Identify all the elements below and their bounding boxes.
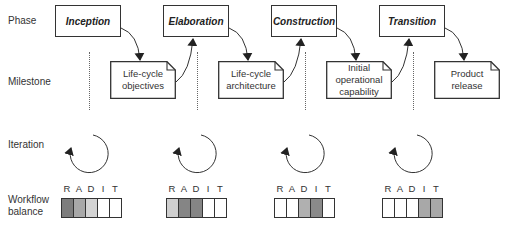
balance-cell (98, 199, 110, 217)
discipline-letter: I (418, 183, 430, 195)
discipline-letter: A (73, 183, 85, 195)
discipline-letter: T (214, 183, 226, 195)
workflow-balance-elaboration: R A D I T (166, 183, 227, 218)
balance-cell (179, 199, 191, 217)
balance-cell (110, 199, 121, 217)
balance-bar (382, 198, 443, 218)
discipline-letter: D (406, 183, 418, 195)
balance-cell (383, 199, 395, 217)
balance-cell (191, 199, 203, 217)
balance-bar (274, 198, 335, 218)
discipline-letter: T (109, 183, 121, 195)
workflow-balance-inception: R A D I T (61, 183, 122, 218)
arrow-phase-to-milestone (121, 28, 464, 60)
discipline-letter: D (85, 183, 97, 195)
balance-bar (61, 198, 122, 218)
balance-cell (86, 199, 98, 217)
arrow-milestone-to-phase (176, 39, 409, 82)
balance-cell (323, 199, 334, 217)
discipline-letter: R (382, 183, 394, 195)
discipline-letter: A (394, 183, 406, 195)
balance-cell (62, 199, 74, 217)
discipline-letter: R (61, 183, 73, 195)
balance-cell (431, 199, 442, 217)
discipline-letter: D (190, 183, 202, 195)
balance-cell (215, 199, 226, 217)
discipline-letter: I (97, 183, 109, 195)
balance-cell (167, 199, 179, 217)
balance-cell (419, 199, 431, 217)
discipline-letter: A (178, 183, 190, 195)
discipline-letter: T (322, 183, 334, 195)
balance-cell (74, 199, 86, 217)
balance-bar (166, 198, 227, 218)
balance-cell (395, 199, 407, 217)
workflow-balance-construction: R A D I T (274, 183, 335, 218)
balance-cell (203, 199, 215, 217)
discipline-letter: I (202, 183, 214, 195)
balance-cell (299, 199, 311, 217)
balance-cell (311, 199, 323, 217)
balance-cell (407, 199, 419, 217)
balance-cell (275, 199, 287, 217)
iteration-loop-icon (70, 135, 432, 173)
discipline-letter: R (274, 183, 286, 195)
discipline-letter: R (166, 183, 178, 195)
discipline-letter: T (430, 183, 442, 195)
balance-cell (287, 199, 299, 217)
workflow-balance-transition: R A D I T (382, 183, 443, 218)
discipline-letter: D (298, 183, 310, 195)
discipline-letter: A (286, 183, 298, 195)
discipline-letter: I (310, 183, 322, 195)
